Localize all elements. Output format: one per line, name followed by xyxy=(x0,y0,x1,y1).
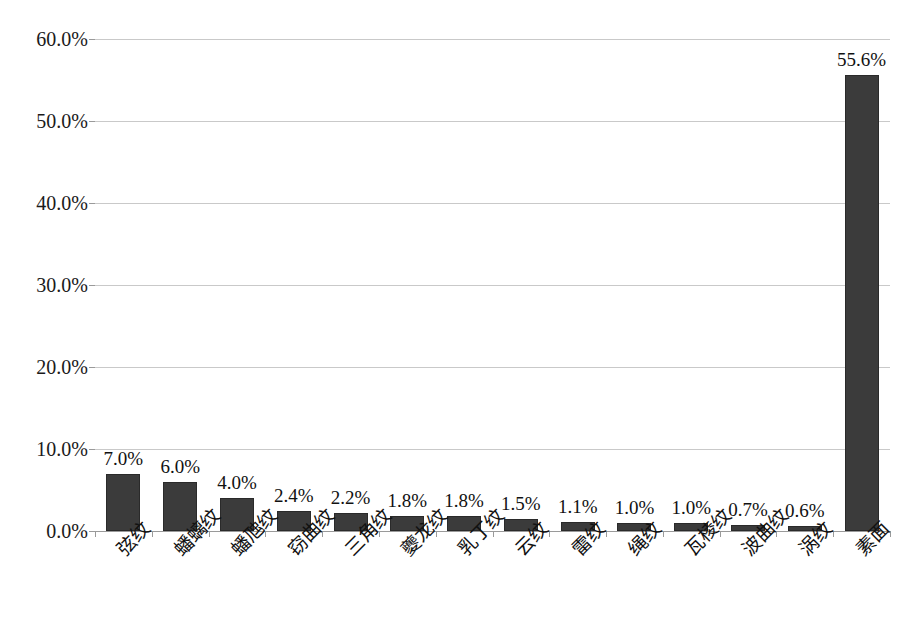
y-axis-tick-label: 40.0% xyxy=(36,192,88,215)
y-axis-tick-mark xyxy=(89,531,95,532)
y-axis-tick-mark xyxy=(89,39,95,40)
bar-group: 2.4% xyxy=(265,39,322,531)
figure-caption xyxy=(0,616,904,623)
bar-group: 2.2% xyxy=(322,39,379,531)
y-axis-tick-label: 60.0% xyxy=(36,28,88,51)
bar-value-label: 2.4% xyxy=(274,485,314,507)
y-axis-tick-mark xyxy=(89,121,95,122)
y-axis-tick-mark xyxy=(89,285,95,286)
y-axis-tick-mark xyxy=(89,449,95,450)
x-axis-tick-mark xyxy=(95,531,96,537)
bar-group: 6.0% xyxy=(152,39,209,531)
bar-value-label: 7.0% xyxy=(104,448,144,470)
bar-group: 4.0% xyxy=(209,39,266,531)
y-axis-tick-label: 20.0% xyxy=(36,356,88,379)
bar-group: 1.1% xyxy=(549,39,606,531)
y-axis-tick-mark xyxy=(89,367,95,368)
bar-group: 1.0% xyxy=(663,39,720,531)
bar-group: 0.7% xyxy=(720,39,777,531)
y-axis-tick-mark xyxy=(89,203,95,204)
bar-value-label: 6.0% xyxy=(160,456,200,478)
bar-chart: 0.0%10.0%20.0%30.0%40.0%50.0%60.0% 7.0%6… xyxy=(0,0,904,623)
bar-group: 7.0% xyxy=(95,39,152,531)
plot-area: 7.0%6.0%4.0%2.4%2.2%1.8%1.8%1.5%1.1%1.0%… xyxy=(95,39,890,531)
y-axis-tick-label: 30.0% xyxy=(36,274,88,297)
bar[interactable] xyxy=(845,75,879,531)
bar-value-label: 4.0% xyxy=(217,472,257,494)
y-axis: 0.0%10.0%20.0%30.0%40.0%50.0%60.0% xyxy=(0,0,88,623)
bar-group: 55.6% xyxy=(833,39,890,531)
bar-value-label: 1.8% xyxy=(388,490,428,512)
bar-value-label: 2.2% xyxy=(331,487,371,509)
bar-value-label: 55.6% xyxy=(837,49,886,71)
bar-group: 1.8% xyxy=(436,39,493,531)
bar-group: 1.8% xyxy=(379,39,436,531)
bar-group: 1.0% xyxy=(606,39,663,531)
bar-group: 1.5% xyxy=(493,39,550,531)
bar-value-label: 1.8% xyxy=(444,490,484,512)
y-axis-tick-label: 10.0% xyxy=(36,438,88,461)
y-axis-tick-label: 0.0% xyxy=(46,520,88,543)
bar-value-label: 1.5% xyxy=(501,493,541,515)
x-axis: 弦纹蟠螭纹蟠虺纹窃曲纹三角纹夔龙纹乳丁纹云纹雷纹绳纹瓦棱纹波曲纹涡纹素面 xyxy=(95,531,890,623)
y-axis-tick-label: 50.0% xyxy=(36,110,88,133)
bar-group: 0.6% xyxy=(776,39,833,531)
